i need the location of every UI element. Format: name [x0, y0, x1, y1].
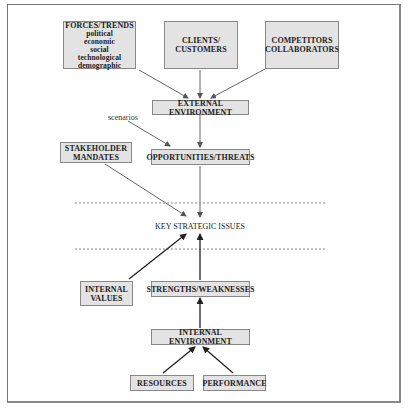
competitors-line2: COLLABORATORS [265, 45, 339, 54]
external-environment-node: EXTERNAL ENVIRONMENT [152, 100, 249, 115]
internal-environment-node: INTERNAL ENVIRONMENT [151, 329, 250, 345]
opportunities-threats-node: OPPORTUNITIES/THREATS [151, 149, 250, 165]
forces-trends-node: FORCES/TRENDS political economic social … [63, 21, 136, 69]
resources-label: RESOURCES [137, 379, 187, 388]
stakeholder-line1: STAKEHOLDER [65, 144, 127, 153]
competitors-collaborators-node: COMPETITORS COLLABORATORS [265, 21, 339, 69]
internal-values-line1: INTERNAL [85, 285, 128, 294]
internal-values-node: INTERNAL VALUES [80, 281, 133, 306]
opportunities-threats-label: OPPORTUNITIES/THREATS [147, 153, 255, 162]
stakeholder-line2: MANDATES [73, 153, 119, 162]
internal-environment-label: INTERNAL ENVIRONMENT [152, 328, 249, 346]
resources-node: RESOURCES [130, 375, 194, 391]
performance-node: PERFORMANCE [203, 375, 266, 391]
internal-values-line2: VALUES [90, 294, 122, 303]
stakeholder-mandates-node: STAKEHOLDER MANDATES [60, 142, 132, 163]
clients-line1: CLIENTS/ [182, 36, 220, 45]
forces-item: demographic [78, 62, 121, 70]
external-environment-label: EXTERNAL ENVIRONMENT [153, 99, 248, 117]
clients-customers-node: CLIENTS/ CUSTOMERS [164, 21, 238, 69]
performance-label: PERFORMANCE [202, 379, 266, 388]
key-strategic-issues-label: KEY STRATEGIC ISSUES [0, 222, 400, 231]
competitors-line1: COMPETITORS [272, 36, 333, 45]
strengths-weaknesses-node: STRENGTHS/WEAKNESSES [151, 281, 250, 297]
clients-line2: CUSTOMERS [175, 45, 226, 54]
scenarios-label: scenarios [108, 113, 138, 122]
strengths-weaknesses-label: STRENGTHS/WEAKNESSES [146, 285, 254, 294]
